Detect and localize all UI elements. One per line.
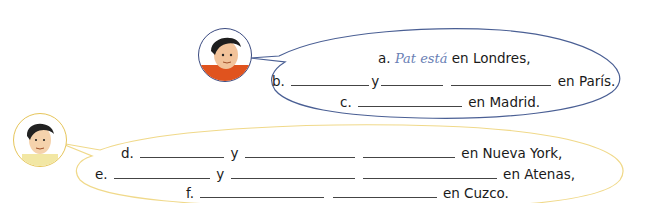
- sentence-e: e. y en Atenas,: [95, 166, 575, 182]
- item-label: a.: [378, 50, 391, 66]
- boy-face-icon: [199, 29, 251, 81]
- answer-blank[interactable]: [140, 156, 224, 158]
- answer-blank[interactable]: [114, 177, 210, 179]
- worksheet-exercise: a. Pat está en Londres, b. y en París. c…: [0, 0, 647, 203]
- answer-blank[interactable]: [358, 105, 462, 107]
- sentence-suffix: en Londres,: [452, 50, 531, 66]
- sentence-c: c. en Madrid.: [340, 94, 540, 110]
- answer-blank[interactable]: [363, 177, 497, 179]
- example-answer: Pat está: [395, 51, 448, 66]
- sentence-b: b. y en París.: [272, 73, 615, 89]
- sentence-suffix: en Cuzco.: [443, 185, 509, 201]
- sentence-d: d. y en Nueva York,: [121, 145, 562, 161]
- boy-yellow-shirt-avatar: [13, 113, 67, 167]
- conjunction: y: [371, 73, 379, 89]
- item-label: d.: [121, 145, 134, 161]
- answer-blank[interactable]: [245, 156, 355, 158]
- answer-blank[interactable]: [291, 84, 369, 86]
- conjunction: y: [230, 145, 238, 161]
- boy-face-icon: [14, 114, 66, 166]
- item-label: c.: [340, 94, 352, 110]
- sentence-suffix: en Madrid.: [468, 94, 540, 110]
- answer-blank[interactable]: [231, 177, 355, 179]
- item-label: f.: [186, 185, 194, 201]
- sentence-f: f. en Cuzco.: [186, 185, 509, 201]
- sentence-suffix: en París.: [558, 73, 616, 89]
- sentence-suffix: en Nueva York,: [461, 145, 562, 161]
- item-label: b.: [272, 73, 285, 89]
- item-label: e.: [95, 166, 108, 182]
- answer-blank[interactable]: [363, 156, 455, 158]
- answer-blank[interactable]: [200, 196, 324, 198]
- sentence-suffix: en Atenas,: [503, 166, 575, 182]
- sentence-a: a. Pat está en Londres,: [378, 50, 531, 67]
- answer-blank[interactable]: [381, 84, 443, 86]
- answer-blank[interactable]: [333, 196, 437, 198]
- boy-red-shirt-avatar: [198, 28, 252, 82]
- conjunction: y: [216, 166, 224, 182]
- answer-blank[interactable]: [451, 84, 551, 86]
